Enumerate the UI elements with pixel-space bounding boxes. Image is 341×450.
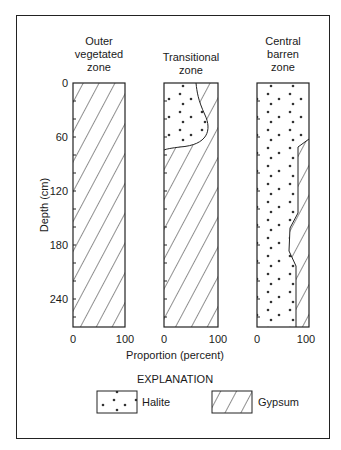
svg-text:120: 120 [50,185,68,197]
svg-text:0: 0 [70,333,76,345]
y-axis-label: Depth (cm) [38,178,50,232]
panel-outer-vegetated [73,83,125,327]
panel-central-barren [257,83,309,327]
svg-text:100: 100 [116,333,134,345]
legend-gypsum: Gypsum [212,391,299,413]
svg-text:zone: zone [179,64,203,76]
x-axis-ticks: 0 100 0 100 0 100 [70,333,315,345]
svg-text:100: 100 [297,333,315,345]
panel-title-central: Central barren zone [265,35,300,73]
svg-text:180: 180 [50,239,68,251]
x-axis-label: Proportion (percent) [126,349,224,361]
panel-title-transitional: Transitional zone [163,51,219,76]
svg-text:0: 0 [254,333,260,345]
svg-text:Central: Central [265,35,300,47]
svg-text:0: 0 [161,333,167,345]
svg-text:Outer: Outer [85,35,113,47]
legend-title: EXPLANATION [137,373,213,385]
panel-transitional [164,83,218,327]
svg-text:vegetated: vegetated [75,48,123,60]
svg-text:240: 240 [50,293,68,305]
svg-text:100: 100 [209,333,227,345]
legend-halite: Halite [97,391,170,413]
svg-text:60: 60 [56,131,68,143]
svg-text:zone: zone [271,61,295,73]
svg-text:0: 0 [62,77,68,89]
svg-text:zone: zone [87,61,111,73]
legend: EXPLANATION Halite Gypsum [97,373,299,413]
depth-profile-chart: Outer vegetated zone Transitional zone C… [0,0,341,450]
panel-title-outer: Outer vegetated zone [75,35,123,73]
svg-text:Halite: Halite [142,396,170,408]
y-axis-ticks: 0 60 120 180 240 [50,77,68,305]
svg-text:Transitional: Transitional [163,51,219,63]
svg-text:barren: barren [267,48,299,60]
svg-text:Gypsum: Gypsum [258,396,299,408]
